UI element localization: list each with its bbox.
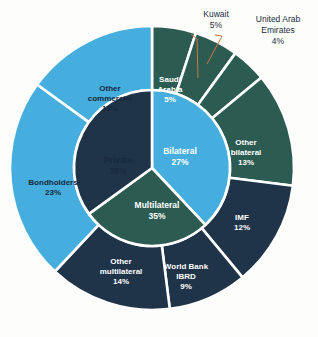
callout-kuwait-pct: 5% <box>210 20 223 30</box>
callout-kuwait-name: Kuwait <box>203 9 229 19</box>
nested-donut-chart: Kuwait 5% United Arab Emirates 4% Saudi … <box>0 0 318 337</box>
callout-united-arab-emirates: United Arab Emirates 4% <box>256 14 301 46</box>
callout-uae-line1: United Arab <box>256 14 301 24</box>
callout-kuwait: Kuwait 5% <box>203 9 229 30</box>
callout-uae-pct: 4% <box>272 36 285 46</box>
inner-ring <box>74 90 230 246</box>
pie-chart-container: Kuwait 5% United Arab Emirates 4% Saudi … <box>0 0 318 337</box>
callout-uae-line2: Emirates <box>261 25 295 35</box>
